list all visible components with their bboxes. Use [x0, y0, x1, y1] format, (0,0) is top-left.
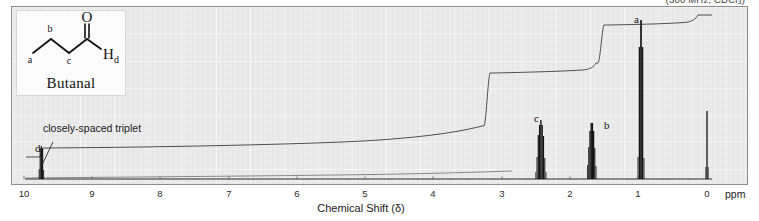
peak-c	[536, 120, 546, 179]
bond-a-b	[33, 39, 51, 53]
structure-label-b: b	[48, 23, 53, 34]
peak-a	[638, 20, 644, 179]
axis-tick-8: 8	[157, 188, 162, 199]
chemical-shift-axis: 10 9 8 7 6 5 4 3 2 1 0 ppm Chemical Shif…	[11, 185, 748, 221]
axis-tick-3: 3	[499, 188, 504, 199]
axis-tick-5: 5	[362, 188, 367, 199]
peak-label-a: a	[634, 14, 639, 25]
axis-tick-2: 2	[567, 188, 572, 199]
bond-c-carbonyl	[69, 39, 87, 53]
axis-tick-7: 7	[226, 188, 231, 199]
spectrum-conditions-label: (300 MHz, CDCl3)	[666, 0, 745, 5]
bond-carbonyl-hydrogen	[87, 39, 101, 49]
axis-tick-6: 6	[294, 188, 299, 199]
axis-tick-4: 4	[430, 188, 435, 199]
axis-title-label: Chemical Shift (δ)	[11, 202, 711, 214]
structure-label-c: c	[67, 55, 72, 66]
axis-tick-0: 0	[704, 188, 709, 199]
molecule-name-label: Butanal	[17, 75, 125, 92]
nmr-spectrum-figure: (300 MHz, CDCl3)	[0, 0, 759, 221]
peak-b	[588, 123, 596, 179]
structure-label-O: O	[82, 11, 93, 25]
axis-tick-9: 9	[89, 188, 94, 199]
integration-curve	[26, 15, 712, 157]
structure-label-a: a	[28, 54, 33, 65]
annotation-closely-spaced-triplet: closely-spaced triplet	[43, 122, 141, 134]
peak-label-d: d	[35, 143, 41, 154]
axis-tick-10: 10	[19, 188, 30, 199]
baseline-drift	[26, 171, 512, 178]
conditions-prefix: (300 MHz, CDCl	[666, 0, 738, 5]
conditions-suffix: )	[742, 0, 745, 5]
axis-tick-1: 1	[635, 188, 640, 199]
peak-label-b: b	[604, 120, 610, 131]
peak-tms	[706, 111, 708, 179]
molecule-structure-inset: O a b c H d Butanal	[16, 10, 126, 96]
axis-unit-label: ppm	[725, 188, 745, 200]
structure-label-H: H	[103, 46, 114, 62]
structure-label-H-subscript-d: d	[114, 54, 119, 65]
bond-b-c	[51, 39, 69, 53]
peak-label-c: c	[534, 113, 539, 124]
butanal-skeleton-svg: O a b c H d	[17, 11, 125, 73]
